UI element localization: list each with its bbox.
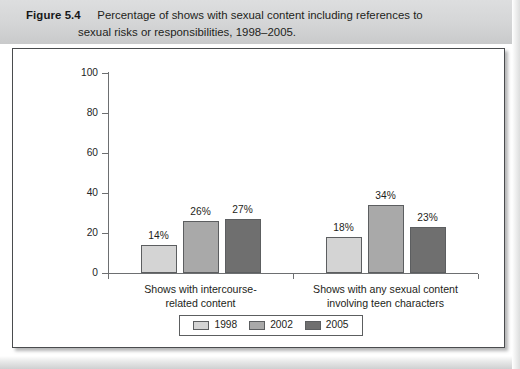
bar [183,221,219,273]
x-axis-tick [478,274,479,279]
bar-value-label: 14% [133,231,185,241]
y-axis-tick [102,193,108,194]
y-axis-tick [102,233,108,234]
legend-item[interactable]: 2005 [305,320,349,330]
legend-label: 2002 [270,320,293,330]
legend-swatch [249,321,265,330]
figure-frame: 020406080100 14%26%27%18%34%23% Shows wi… [12,48,505,348]
legend-label: 2005 [326,320,349,330]
legend-item[interactable]: 1998 [193,320,237,330]
bar [141,245,177,273]
bar-chart: 020406080100 14%26%27%18%34%23% Shows wi… [13,49,506,349]
figure-number: Figure 5.4 [26,9,81,21]
y-axis-tick-label: 80 [62,108,98,118]
bar [410,227,446,273]
bar [326,237,362,273]
page-edge-shadow-bottom [0,356,520,369]
legend-label: 1998 [214,320,237,330]
x-axis-group-label-line: Shows with any sexual content [276,283,496,297]
figure-caption-line-1: Percentage of shows with sexual content … [97,9,422,21]
y-axis-tick [102,153,108,154]
legend-swatch [193,321,209,330]
x-axis-group-label-line: involving teen characters [276,297,496,311]
bar-value-label: 34% [360,191,412,201]
bar [368,205,404,273]
y-axis-tick-label: 60 [62,148,98,158]
figure-caption: Figure 5.4 Percentage of shows with sexu… [26,5,496,40]
x-axis-group-label: Shows with any sexual contentinvolving t… [276,283,496,310]
y-axis-tick [102,73,108,74]
x-axis-tick [108,274,109,279]
bar [225,219,261,273]
y-axis-tick [102,113,108,114]
bar-value-label: 23% [402,213,454,223]
legend-swatch [305,321,321,330]
y-axis-line [108,72,109,274]
figure-caption-line-2: sexual risks or responsibilities, 1998–2… [78,24,496,41]
page-edge-shadow-right [512,0,520,369]
x-axis-tick [293,274,294,279]
chart-legend: 199820022005 [179,315,363,336]
legend-item[interactable]: 2002 [249,320,293,330]
y-axis-tick-label: 40 [62,188,98,198]
y-axis-tick-label: 100 [62,68,98,78]
bar-value-label: 27% [217,205,269,215]
bar-value-label: 18% [318,223,370,233]
figure-caption-banner: Figure 5.4 Percentage of shows with sexu… [0,0,520,44]
y-axis-tick-label: 0 [62,268,98,278]
y-axis-tick-label: 20 [62,228,98,238]
